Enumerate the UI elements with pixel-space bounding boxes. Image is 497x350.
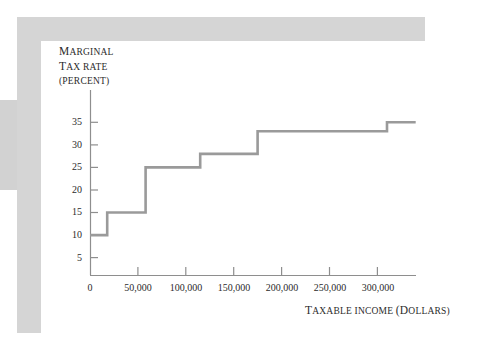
- marginal-tax-rate-step-line: [90, 122, 416, 235]
- y-tick-label-25: 25: [56, 161, 82, 172]
- y-tick-label-30: 30: [56, 139, 82, 150]
- x-axis-ticks: [138, 267, 378, 275]
- y-tick-label-10: 10: [56, 229, 82, 240]
- x-tick-label-0: 0: [78, 282, 102, 293]
- figure-canvas: MARGINAL TAX RATE (PERCENT) TAXABLE INCO…: [0, 0, 497, 350]
- tax-rate-step-chart: MARGINAL TAX RATE (PERCENT) TAXABLE INCO…: [0, 0, 497, 350]
- plot-svg: [0, 0, 497, 350]
- y-tick-label-15: 15: [56, 206, 82, 217]
- y-axis-ticks: [90, 122, 98, 257]
- y-tick-label-20: 20: [56, 184, 82, 195]
- x-tick-label-50000: 50,000: [113, 282, 163, 293]
- y-tick-label-5: 5: [56, 252, 82, 263]
- axes: [90, 90, 416, 276]
- y-tick-label-35: 35: [56, 116, 82, 127]
- x-tick-label-300000: 300,000: [350, 282, 406, 293]
